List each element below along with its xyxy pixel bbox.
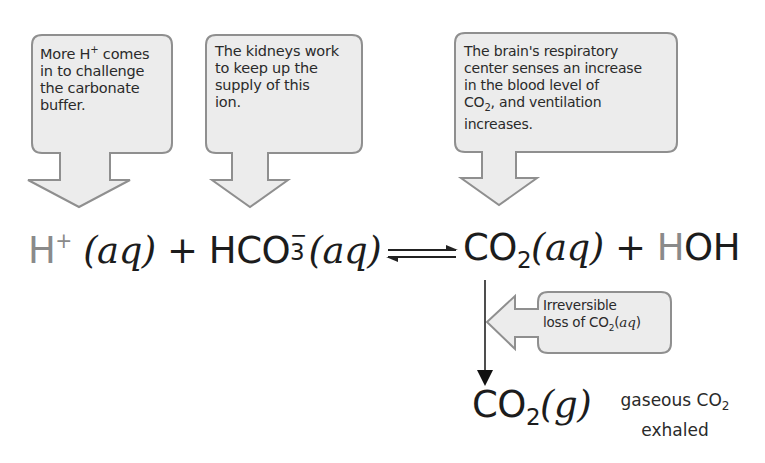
callout-line: The brain's respiratory: [464, 43, 618, 59]
equation-reactants: H+ (aq) + HCO−3(aq): [28, 226, 381, 272]
bicarbonate-subscript: 3: [290, 239, 304, 265]
callout-line: in to challenge: [40, 63, 144, 79]
paren: ): [636, 314, 641, 330]
water-oh: OH: [684, 226, 740, 269]
callout-kidneys-text: The kidneys work to keep up the supply o…: [215, 43, 360, 111]
gaseous-co2: CO2(g): [472, 383, 591, 430]
plus-sign-1: +: [167, 229, 198, 272]
label-subscript: 2: [722, 399, 730, 413]
hydrogen-charge: +: [55, 229, 72, 253]
plus-sign-2: +: [615, 226, 646, 269]
callout-line: comes: [98, 46, 149, 62]
callout-line: ion.: [215, 94, 241, 110]
state-aq: aq: [619, 314, 635, 330]
bicarbonate-sub-sup: −3: [290, 226, 309, 263]
callout-line: center senses an increase: [464, 60, 642, 76]
co2-g-formula: CO: [472, 383, 526, 426]
hydrogen-ion: H: [28, 229, 55, 272]
callout-irreversible-text: Irreversible loss of CO2(aq): [543, 297, 673, 337]
down-arrow-icon: [477, 280, 493, 386]
water-h: H: [657, 226, 684, 269]
callout-line: loss of CO: [543, 314, 609, 330]
gaseous-co2-label: gaseous CO2 exhaled: [600, 388, 750, 442]
label-line: gaseous CO: [621, 390, 722, 410]
callout-line: in the blood level of: [464, 77, 599, 93]
state-aq-1: (aq): [83, 229, 156, 272]
state-gas: (g): [540, 383, 591, 426]
state-aq-2: (aq): [309, 229, 382, 272]
label-line: exhaled: [641, 420, 708, 440]
callout-line: to keep up the: [215, 60, 318, 76]
equation-products: CO2(aq) + HOH: [463, 226, 740, 273]
callout-line: Irreversible: [543, 297, 617, 313]
callout-line: More H: [40, 46, 90, 62]
callout-line: the carbonate: [40, 80, 139, 96]
bicarbonate: HCO: [209, 229, 290, 272]
co2-g-subscript: 2: [526, 404, 540, 430]
carbon-dioxide: CO: [463, 226, 517, 269]
callout-line: CO: [464, 94, 484, 110]
callout-line: supply of this: [215, 77, 310, 93]
callout-line: , and ventilation: [491, 94, 602, 110]
co2-subscript: 2: [517, 247, 531, 273]
callout-line: increases.: [464, 116, 533, 132]
callout-h-plus-text: More H+ comes in to challenge the carbon…: [40, 41, 170, 114]
callout-brain-text: The brain's respiratory center senses an…: [464, 43, 679, 133]
equilibrium-arrow-icon: [386, 245, 458, 262]
callout-line: The kidneys work: [215, 43, 339, 59]
state-aq-3: (aq): [531, 226, 604, 269]
callout-line: buffer.: [40, 97, 85, 113]
